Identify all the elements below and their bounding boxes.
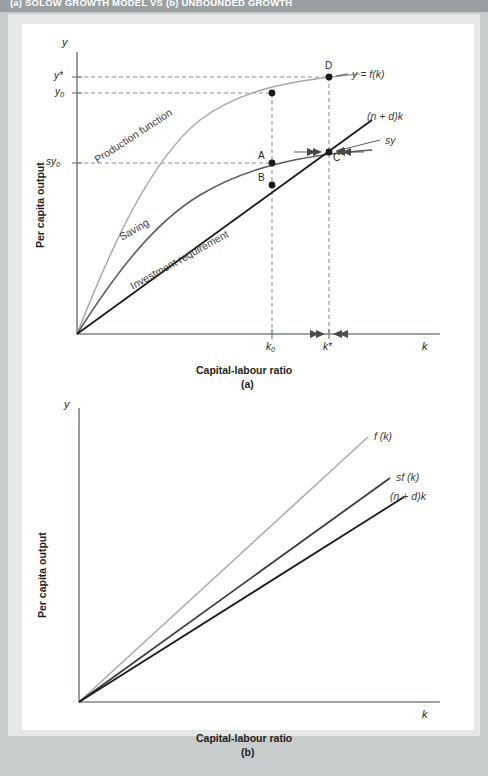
panel-a-ytick-y-zero: y0 bbox=[55, 86, 64, 99]
panel-a-ytick-y-star: y* bbox=[54, 70, 63, 81]
panel-a-panel-label: (a) bbox=[241, 378, 254, 390]
label-n-plus-d-k: (n + d)k bbox=[367, 110, 403, 122]
point-d-label: D bbox=[325, 60, 332, 71]
panel-b-label-sfk: sf (k) bbox=[396, 471, 419, 483]
figure-root: (a) SOLOW GROWTH MODEL VS (b) UNBOUNDED … bbox=[0, 0, 488, 776]
panel-a-ytick-sy-zero: sy0 bbox=[46, 156, 60, 169]
figure-canvas bbox=[22, 24, 474, 730]
panel-a-y-axis-title: Per capita output bbox=[34, 162, 46, 248]
panel-b-label-fk: f (k) bbox=[374, 430, 392, 442]
panel-b-label-ndk: (n + d)k bbox=[390, 490, 426, 502]
figure-caption-text: (a) SOLOW GROWTH MODEL VS (b) UNBOUNDED … bbox=[10, 0, 292, 8]
panel-a-xtick-k-star: k* bbox=[323, 341, 332, 352]
panel-a-xtick-k-zero: k0 bbox=[266, 341, 275, 354]
panel-a-y-symbol: y bbox=[62, 36, 68, 48]
figure-caption-bar: (a) SOLOW GROWTH MODEL VS (b) UNBOUNDED … bbox=[0, 0, 488, 12]
panel-b-y-axis-title: Per capita output bbox=[36, 532, 48, 618]
panel-b-x-axis-title: Capital-labour ratio bbox=[196, 732, 292, 744]
panel-b-panel-label: (b) bbox=[241, 746, 254, 758]
point-b-label: B bbox=[258, 172, 265, 183]
point-c-label: C bbox=[333, 152, 340, 163]
panel-b-y-symbol: y bbox=[64, 398, 70, 410]
label-y-equals-fk: y = f(k) bbox=[352, 68, 384, 80]
panel-a-x-symbol: k bbox=[422, 340, 428, 352]
panel-b-x-symbol: k bbox=[422, 708, 428, 720]
label-sy: sy bbox=[385, 134, 396, 146]
point-a-label: A bbox=[258, 150, 265, 161]
panel-a-x-axis-title: Capital-labour ratio bbox=[196, 364, 292, 376]
